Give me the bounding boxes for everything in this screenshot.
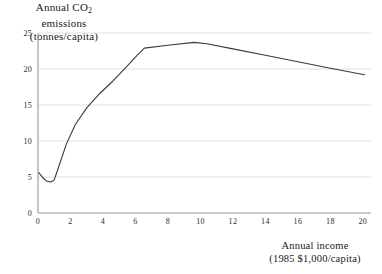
- svg-text:18: 18: [326, 217, 335, 226]
- svg-text:25: 25: [23, 29, 32, 38]
- svg-text:0: 0: [28, 209, 32, 218]
- chart-plot-area: 0510152025 02468101214161820: [0, 0, 382, 274]
- svg-text:12: 12: [229, 217, 238, 226]
- svg-text:20: 20: [23, 65, 32, 74]
- svg-text:15: 15: [23, 101, 32, 110]
- grid-lines: [38, 33, 371, 177]
- svg-text:16: 16: [294, 217, 303, 226]
- svg-text:8: 8: [166, 217, 170, 226]
- svg-text:2: 2: [68, 217, 72, 226]
- chart-figure: Annual CO2 emissions (tonnes/capita) Ann…: [0, 0, 382, 274]
- svg-text:5: 5: [28, 173, 32, 182]
- svg-text:14: 14: [261, 217, 270, 226]
- svg-text:4: 4: [101, 217, 105, 226]
- y-tick-labels: 0510152025: [23, 29, 32, 218]
- axis-lines: [38, 33, 371, 213]
- svg-text:20: 20: [359, 217, 368, 226]
- svg-text:6: 6: [133, 217, 137, 226]
- x-tick-labels: 02468101214161820: [36, 217, 367, 226]
- svg-text:0: 0: [36, 217, 40, 226]
- data-series: [39, 42, 365, 182]
- svg-text:10: 10: [23, 137, 32, 146]
- svg-text:10: 10: [196, 217, 205, 226]
